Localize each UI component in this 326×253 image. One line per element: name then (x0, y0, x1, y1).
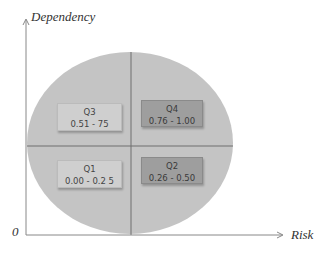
quadrant-q3-name: Q3 (58, 106, 121, 118)
y-axis-label: Dependency (31, 9, 95, 25)
quadrant-q4-name: Q4 (142, 103, 202, 115)
origin-label: 0 (12, 224, 19, 240)
quadrant-q4-range: 0.76 - 1.00 (142, 115, 202, 127)
quadrant-q1-name: Q1 (58, 163, 121, 175)
quadrant-q3-box: Q3 0.51 - 75 (57, 103, 122, 131)
quadrant-q2-box: Q2 0.26 - 0.50 (141, 157, 203, 184)
quadrant-q2-range: 0.26 - 0.50 (142, 172, 202, 184)
quadrant-q1-box: Q1 0.00 - 0.2 5 (57, 160, 122, 188)
x-axis-label: Risk (291, 227, 313, 243)
quadrant-q4-box: Q4 0.76 - 1.00 (141, 100, 203, 127)
quadrant-diagram: Dependency Risk 0 Q3 0.51 - 75 Q4 0.76 -… (0, 0, 326, 253)
quadrant-q3-range: 0.51 - 75 (58, 118, 121, 130)
quadrant-q2-name: Q2 (142, 160, 202, 172)
risk-ellipse (27, 52, 233, 234)
quadrant-q1-range: 0.00 - 0.2 5 (58, 175, 121, 187)
